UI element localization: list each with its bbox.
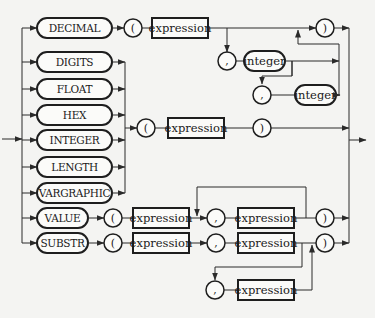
keyword-vargraphic: VARGRAPHIC [37, 183, 112, 203]
value-expression-2: expression [235, 208, 298, 228]
expression-label: expression [130, 236, 193, 250]
decimal-expression: expression [149, 18, 212, 38]
keyword-hex: HEX [37, 105, 112, 125]
substr-expression-2: expression [235, 233, 298, 253]
keyword-float-label: FLOAT [57, 83, 93, 95]
keyword-value-label: VALUE [44, 212, 81, 224]
integer-label: integer [243, 54, 286, 68]
group-expression: expression [165, 118, 228, 138]
expression-label: expression [235, 211, 298, 225]
substr-comma-optional: , [206, 281, 224, 299]
keyword-length-label: LENGTH [51, 161, 98, 173]
keyword-hex-label: HEX [63, 109, 87, 121]
value-expression-1: expression [130, 208, 193, 228]
group-close-paren: ) [253, 119, 271, 137]
keyword-digits-label: DIGITS [56, 56, 94, 68]
keyword-decimal-label: DECIMAL [49, 22, 101, 34]
keyword-value: VALUE [37, 208, 88, 228]
substr-expression-optional: expression [235, 280, 298, 300]
expression-label: expression [165, 121, 228, 135]
substr-comma: , [207, 234, 225, 252]
open-paren-symbol: ( [131, 22, 135, 35]
close-paren-symbol: ) [323, 237, 327, 250]
keyword-substr-label: SUBSTR [40, 237, 85, 249]
syntax-diagram: DECIMAL DIGITS FLOAT HEX INTEGER LENGTH … [0, 0, 375, 318]
decimal-comma-1: , [218, 52, 236, 70]
decimal-close-paren: ) [316, 19, 334, 37]
keyword-decimal: DECIMAL [37, 18, 112, 38]
comma-symbol: , [214, 236, 218, 249]
substr-open-paren: ( [104, 234, 122, 252]
comma-symbol: , [225, 54, 229, 67]
value-open-paren: ( [104, 209, 122, 227]
expression-label: expression [235, 283, 298, 297]
open-paren-symbol: ( [144, 122, 148, 135]
value-comma: , [207, 209, 225, 227]
keyword-vargraphic-label: VARGRAPHIC [38, 187, 111, 199]
substr-expression-1: expression [130, 233, 193, 253]
comma-symbol: , [213, 283, 217, 296]
comma-symbol: , [214, 211, 218, 224]
comma-symbol: , [260, 88, 264, 101]
expression-label: expression [130, 211, 193, 225]
keyword-length: LENGTH [37, 157, 112, 177]
open-paren-symbol: ( [111, 237, 115, 250]
keyword-integer-label: INTEGER [50, 134, 101, 146]
open-paren-symbol: ( [111, 212, 115, 225]
close-paren-symbol: ) [323, 212, 327, 225]
close-paren-symbol: ) [260, 122, 264, 135]
substr-close-paren: ) [316, 234, 334, 252]
decimal-integer-2: integer [294, 85, 337, 105]
keyword-float: FLOAT [37, 79, 112, 99]
integer-label: integer [294, 88, 337, 102]
decimal-open-paren: ( [124, 19, 142, 37]
value-close-paren: ) [316, 209, 334, 227]
decimal-integer-1: integer [243, 51, 286, 71]
close-paren-symbol: ) [323, 22, 327, 35]
group-open-paren: ( [137, 119, 155, 137]
decimal-comma-2: , [253, 86, 271, 104]
keyword-integer: INTEGER [37, 130, 112, 150]
expression-label: expression [235, 236, 298, 250]
expression-label: expression [149, 21, 212, 35]
keyword-substr: SUBSTR [37, 233, 88, 253]
keyword-digits: DIGITS [37, 52, 112, 72]
